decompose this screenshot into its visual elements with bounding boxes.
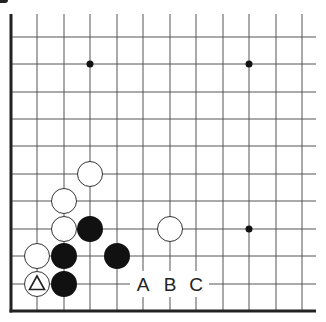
- point-labels: ABC: [137, 274, 203, 295]
- black-stone: [51, 271, 77, 297]
- white-stone: [158, 217, 183, 242]
- grid-lines: [10, 14, 317, 313]
- point-label-c: C: [189, 274, 203, 295]
- star-point: [87, 61, 94, 68]
- black-stone: [77, 216, 103, 242]
- go-board: ABC: [0, 0, 326, 322]
- black-stone: [104, 243, 130, 269]
- point-label-a: A: [137, 274, 150, 295]
- white-stone: [25, 244, 50, 269]
- white-stone: [52, 217, 77, 242]
- point-label-b: B: [164, 274, 177, 295]
- star-point: [246, 61, 253, 68]
- white-stone: [78, 162, 103, 187]
- white-stone: [52, 189, 77, 214]
- star-point: [246, 226, 253, 233]
- black-stone: [51, 243, 77, 269]
